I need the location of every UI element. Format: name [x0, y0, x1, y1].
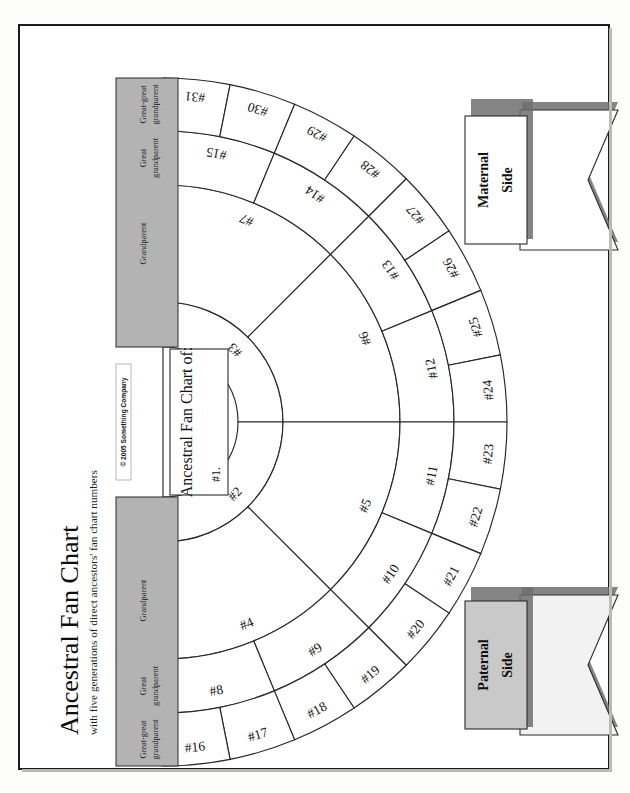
copyright-block: © 2005 Something Company [116, 364, 131, 480]
fan-segment[interactable]: #24 [448, 355, 507, 422]
chart-plane: Ancestral Fan Chart with five generation… [20, 49, 612, 793]
fan-segment-number: #31 [184, 89, 206, 106]
center-number: #1. [209, 467, 223, 482]
generation-label-line2: grandparent [151, 665, 160, 706]
fan-segment-cell[interactable] [448, 422, 507, 489]
fan-segment-number: #16 [184, 738, 206, 755]
paternal-side-banner: Paternal Side [465, 587, 618, 735]
maternal-label-line1: Maternal [476, 152, 491, 208]
fan-segment-number: #24 [479, 379, 496, 401]
page-frame: Ancestral Fan Chart with five generation… [18, 24, 610, 770]
maternal-label-line2: Side [500, 167, 515, 193]
copyright-text: © 2005 Something Company [120, 377, 128, 466]
paternal-plate [465, 601, 527, 729]
page-title: Ancestral Fan Chart [55, 525, 84, 735]
fan-segment[interactable]: #23 [448, 422, 507, 489]
paternal-label-line1: Paternal [476, 639, 491, 690]
fan-segment-number: #23 [479, 443, 496, 465]
generation-label-line1: Grandparent [139, 222, 148, 265]
center-heading: Ancestral Fan Chart of: [178, 347, 195, 498]
center-name-box[interactable]: Ancestral Fan Chart of: #1. [170, 347, 228, 498]
generation-label-line2: grandparent [151, 719, 160, 760]
fan-chart-svg: Ancestral Fan Chart with five generation… [20, 49, 612, 793]
maternal-plate [465, 116, 527, 244]
generation-label-line1: Great-great [139, 720, 148, 759]
page-canvas: Ancestral Fan Chart with five generation… [0, 0, 630, 793]
generation-label-line1: Grandparent [139, 579, 148, 622]
paternal-banner-tail [520, 595, 618, 735]
generation-label-line1: Great-great [139, 85, 148, 124]
generation-label-line2: grandparent [151, 137, 160, 178]
maternal-side-banner: Maternal Side [465, 99, 618, 250]
maternal-generation-label: Grandparent [139, 222, 148, 265]
paternal-generation-label: Grandparent [139, 579, 148, 622]
page-subtitle: with five generations of direct ancestor… [87, 470, 99, 735]
generation-label-line2: grandparent [151, 84, 160, 125]
generation-label-line1: Great [139, 676, 148, 695]
paternal-label-line2: Side [500, 652, 515, 678]
fan-segment-cell[interactable] [448, 355, 507, 422]
maternal-banner-tail [520, 110, 618, 250]
generation-label-line1: Great [139, 148, 148, 167]
